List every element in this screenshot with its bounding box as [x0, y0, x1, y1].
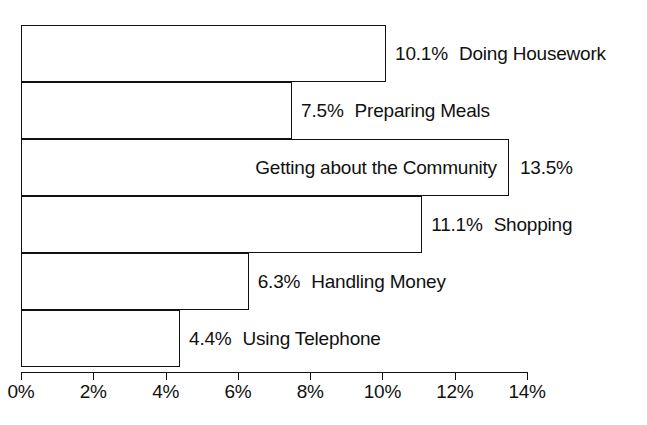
x-axis-line — [21, 372, 527, 373]
bar-label-1: 10.1%Doing Housework — [395, 25, 606, 82]
bar-value-5: 6.3% — [258, 272, 301, 291]
x-tick-6 — [455, 372, 456, 380]
x-tick-5 — [382, 372, 383, 380]
x-tick-2 — [166, 372, 167, 380]
bar-row: 4.4%Using Telephone — [0, 310, 647, 367]
x-tick-3 — [238, 372, 239, 380]
x-tick-label-3: 6% — [224, 382, 251, 401]
x-tick-label-1: 2% — [80, 382, 107, 401]
x-tick-label-0: 0% — [8, 382, 35, 401]
bar-label-4: 11.1%Shopping — [431, 196, 572, 253]
bar-row: 11.1%Shopping — [0, 196, 647, 253]
bar-label-6: 4.4%Using Telephone — [189, 310, 381, 367]
bar-value-3: 13.5% — [520, 139, 573, 196]
bar-5[interactable] — [21, 253, 249, 310]
x-tick-1 — [93, 372, 94, 380]
bar-row: Getting about the Community13.5% — [0, 139, 647, 196]
x-tick-label-6: 12% — [436, 382, 473, 401]
bar-value-4: 11.1% — [431, 215, 482, 234]
bar-label-5: 6.3%Handling Money — [258, 253, 446, 310]
bar-row: 6.3%Handling Money — [0, 253, 647, 310]
bar-4[interactable] — [21, 196, 422, 253]
bar-value-1: 10.1% — [395, 44, 448, 63]
x-tick-7 — [527, 372, 528, 380]
x-tick-label-7: 14% — [508, 382, 545, 401]
bar-category-1: Doing Housework — [459, 44, 606, 63]
x-tick-label-5: 10% — [364, 382, 401, 401]
x-tick-label-4: 8% — [297, 382, 324, 401]
bar-1[interactable] — [21, 25, 386, 82]
x-tick-label-2: 4% — [152, 382, 179, 401]
bar-category-5: Handling Money — [311, 272, 446, 291]
bar-value-6: 4.4% — [189, 329, 232, 348]
bar-value-2: 7.5% — [301, 101, 344, 120]
bar-row: 7.5%Preparing Meals — [0, 82, 647, 139]
bar-category-6: Using Telephone — [243, 329, 381, 348]
x-tick-0 — [21, 372, 22, 380]
bar-category-3: Getting about the Community — [21, 139, 509, 196]
bar-chart: 10.1%Doing Housework7.5%Preparing MealsG… — [0, 0, 647, 425]
bar-2[interactable] — [21, 82, 292, 139]
bar-6[interactable] — [21, 310, 180, 367]
bar-category-2: Preparing Meals — [355, 101, 490, 120]
plot-area: 10.1%Doing Housework7.5%Preparing MealsG… — [0, 0, 647, 370]
bar-label-2: 7.5%Preparing Meals — [301, 82, 490, 139]
bar-category-4: Shopping — [494, 215, 573, 234]
x-tick-4 — [310, 372, 311, 380]
x-axis: 0%2%4%6%8%10%12%14% — [0, 370, 647, 425]
bar-row: 10.1%Doing Housework — [0, 25, 647, 82]
